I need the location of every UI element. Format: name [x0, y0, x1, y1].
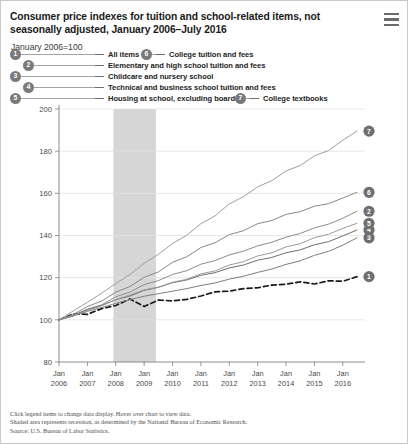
x-axis-tick-label-year: 2009: [136, 379, 152, 388]
legend-label-2[interactable]: Elementary and high school tuition and f…: [108, 61, 265, 70]
x-axis-tick-label-month: Jan: [195, 369, 207, 378]
x-axis-tick-label-year: 2007: [79, 379, 95, 388]
x-axis-tick-label-month: Jan: [81, 369, 93, 378]
legend-label-4[interactable]: Technical and business school tuition an…: [108, 83, 276, 92]
legend-leader-2: [34, 65, 95, 66]
legend-label-6[interactable]: College tuition and fees: [169, 50, 253, 59]
legend-label-3[interactable]: Childcare and nursery school: [108, 72, 213, 81]
y-axis-tick-label: 80: [44, 358, 52, 367]
x-axis-tick-label-year: 2016: [335, 379, 351, 388]
x-axis-tick-label-year: 2011: [193, 379, 209, 388]
footnote-recession: Shaded area represents recession, as det…: [10, 418, 400, 426]
menu-bar-1: [384, 13, 399, 15]
chart-plot-area[interactable]: 80100120140160180200Jan2006Jan2007Jan200…: [1, 97, 408, 402]
x-axis-tick-label-month: Jan: [252, 369, 264, 378]
series-line-7[interactable]: [59, 131, 357, 320]
x-axis-tick-label-year: 2008: [108, 379, 124, 388]
series-line-4[interactable]: [59, 230, 357, 320]
chart-svg[interactable]: 80100120140160180200Jan2006Jan2007Jan200…: [1, 97, 408, 402]
x-axis-tick-label-year: 2012: [221, 379, 237, 388]
series-end-badge-label-7: 7: [367, 128, 371, 135]
legend-item-all-items[interactable]: 1 All items: [10, 49, 139, 60]
hamburger-menu-icon[interactable]: [384, 13, 399, 26]
x-axis-tick-label-month: Jan: [223, 369, 235, 378]
x-axis-tick-label-month: Jan: [337, 369, 349, 378]
footnote-interaction: Click legend items to change data displa…: [10, 410, 400, 418]
y-axis-tick-label: 200: [39, 105, 52, 114]
menu-bar-3: [384, 24, 399, 26]
legend-swatch-1: [95, 54, 104, 56]
legend-swatch-4: [95, 87, 104, 89]
y-axis-tick-label: 100: [39, 316, 52, 325]
x-axis-tick-label-year: 2015: [306, 379, 322, 388]
chart-footnotes: Click legend items to change data displa…: [10, 410, 400, 435]
menu-bar-2: [384, 18, 399, 20]
legend-item-technical-business[interactable]: 4 Technical and business school tuition …: [23, 82, 276, 93]
legend-leader-1: [21, 54, 95, 55]
legend-badge-1[interactable]: 1: [10, 49, 21, 60]
x-axis-tick-label-month: Jan: [280, 369, 292, 378]
y-axis-tick-label: 140: [39, 231, 52, 240]
x-axis-tick-label-month: Jan: [167, 369, 179, 378]
x-axis-tick-label-month: Jan: [53, 369, 65, 378]
x-axis-tick-label-year: 2010: [164, 379, 180, 388]
legend-label-1[interactable]: All items: [108, 50, 139, 59]
legend-badge-6[interactable]: 6: [141, 49, 152, 60]
series-line-1[interactable]: [59, 277, 357, 320]
chart-legend: 1 All items 6 College tuition and fees 2…: [1, 44, 408, 99]
x-axis-tick-label-year: 2014: [278, 379, 294, 388]
series-end-badge-label-1: 1: [367, 273, 371, 280]
legend-item-elementary-high[interactable]: 2 Elementary and high school tuition and…: [23, 60, 265, 71]
legend-badge-2[interactable]: 2: [23, 60, 34, 71]
legend-item-college-tuition[interactable]: 6 College tuition and fees: [141, 49, 253, 60]
y-axis-tick-label: 180: [39, 147, 52, 156]
x-axis-tick-label-month: Jan: [110, 369, 122, 378]
legend-badge-4[interactable]: 4: [23, 82, 34, 93]
series-line-5[interactable]: [59, 223, 357, 320]
series-end-badge-label-5: 5: [367, 220, 371, 227]
legend-leader-4: [34, 87, 95, 88]
footnote-source: Source: U.S. Bureau of Labor Statistics.: [10, 427, 400, 435]
legend-swatch-6: [156, 54, 165, 56]
series-end-badge-label-2: 2: [367, 208, 371, 215]
x-axis-tick-label-year: 2006: [51, 379, 67, 388]
series-end-badge-label-6: 6: [367, 189, 371, 196]
x-axis-tick-label-month: Jan: [138, 369, 150, 378]
page-title: Consumer price indexes for tuition and s…: [10, 10, 358, 36]
legend-swatch-3: [95, 76, 104, 78]
x-axis-tick-label-month: Jan: [308, 369, 320, 378]
y-axis-tick-label: 120: [39, 273, 52, 282]
legend-badge-3[interactable]: 3: [10, 71, 21, 82]
legend-swatch-2: [95, 65, 104, 67]
legend-item-childcare[interactable]: 3 Childcare and nursery school: [10, 71, 213, 82]
series-line-2[interactable]: [59, 211, 357, 320]
x-axis-tick-label-year: 2013: [249, 379, 265, 388]
series-line-3[interactable]: [59, 238, 357, 320]
chart-widget: Consumer price indexes for tuition and s…: [0, 0, 408, 444]
y-axis-tick-label: 160: [39, 189, 52, 198]
legend-leader-3: [21, 76, 95, 77]
